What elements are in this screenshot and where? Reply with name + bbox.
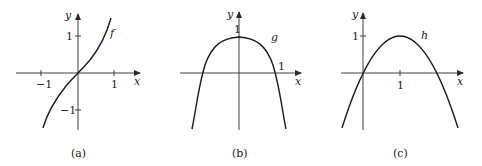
y-tick-label: 1: [234, 23, 241, 36]
y-tick-label: −1: [60, 104, 76, 117]
y-axis-label: y: [64, 9, 72, 22]
y-tick-label: 1: [66, 30, 73, 43]
panel-a: −1 1 1 −1 x y f (a): [16, 9, 141, 160]
x-axis-label: x: [457, 75, 464, 88]
y-tick-label: 1: [352, 30, 359, 43]
x-axis-label: x: [295, 75, 302, 88]
function-label: h: [421, 29, 428, 42]
y-axis-label: y: [226, 8, 234, 21]
x-tick-label: 1: [278, 60, 285, 73]
panel-caption: (b): [232, 147, 248, 160]
y-axis-label: y: [351, 8, 359, 21]
panel-c: 1 1 x y h (c): [341, 8, 464, 160]
x-axis-label: x: [134, 75, 141, 88]
panel-caption: (a): [71, 147, 86, 160]
panel-b: 1 1 x y g (b): [180, 8, 302, 160]
function-graphs-figure: −1 1 1 −1 x y f (a) 1 1 x y g (b) 1 1 x …: [0, 0, 482, 166]
panel-caption: (c): [393, 147, 408, 160]
function-label: f: [109, 27, 116, 40]
x-tick-label: −1: [36, 78, 52, 91]
x-tick-label: 1: [111, 78, 118, 91]
function-label: g: [271, 31, 278, 44]
x-tick-label: 1: [397, 79, 404, 92]
